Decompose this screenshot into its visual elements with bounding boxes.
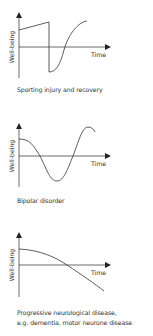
- x-axis-label: Time: [90, 160, 106, 167]
- y-axis-label: Well-being: [8, 31, 16, 64]
- caption-progressive-line-2: e.g. dementia, motor neurone disease: [17, 319, 132, 327]
- x-axis-label: Time: [90, 51, 106, 58]
- panel-progressive-neurological: Well-being Time: [8, 234, 109, 297]
- y-axis-label: Well-being: [8, 249, 16, 282]
- panel-sporting-injury: Well-being Time: [8, 14, 109, 78]
- caption-sporting-injury: Sporting injury and recovery: [17, 86, 102, 94]
- diagram-canvas: Well-being Time Well-being Time Well-bei…: [0, 0, 153, 336]
- panel-bipolar: Well-being Time: [8, 125, 109, 187]
- curve: [19, 127, 95, 181]
- y-axis-label: Well-being: [8, 140, 16, 173]
- curve: [19, 21, 87, 72]
- caption-bipolar: Bipolar disorder: [17, 197, 64, 205]
- caption-progressive-line-1: Progressive neurological disease,: [17, 309, 117, 317]
- x-axis-label: Time: [90, 269, 106, 276]
